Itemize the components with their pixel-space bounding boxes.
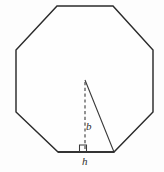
altitude-label: b <box>86 121 92 132</box>
figure-canvas <box>0 0 164 172</box>
geometry-figure: b h <box>0 0 164 172</box>
base-label: h <box>82 156 88 167</box>
